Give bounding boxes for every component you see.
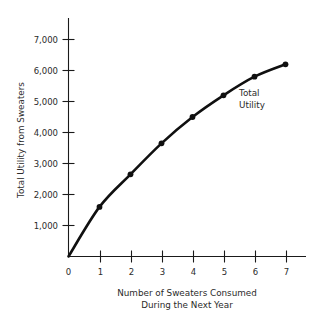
x-tick-label-3: 3 (160, 267, 165, 277)
data-point-7 (283, 61, 289, 67)
y-tick-label-6000: 6,000 (34, 66, 58, 76)
data-point-3 (159, 140, 165, 146)
series-label-line2: Utility (239, 100, 265, 110)
y-tick-label-7000: 7,000 (34, 35, 58, 45)
x-tick-label-1: 1 (98, 267, 103, 277)
x-axis-title-line1: Number of Sweaters Consumed (117, 288, 257, 298)
x-tick-label-4: 4 (191, 267, 196, 277)
data-point-4 (190, 114, 196, 120)
x-axis-title-line2: During the Next Year (141, 300, 233, 310)
x-tick-label-0: 0 (66, 267, 71, 277)
y-tick-label-2000: 2,000 (34, 190, 58, 200)
y-tick-label-5000: 5,000 (34, 97, 58, 107)
data-point-2 (128, 171, 134, 177)
x-tick-label-6: 6 (253, 267, 258, 277)
chart-canvas: 7,000 6,000 5,000 4,000 3,000 2,000 1,00… (0, 0, 332, 318)
x-tick-label-7: 7 (284, 267, 289, 277)
data-point-5 (221, 92, 227, 98)
data-point-1 (97, 204, 103, 210)
data-point-markers (97, 61, 289, 209)
y-axis-title: Total Utility from Sweaters (16, 82, 26, 199)
y-tick-label-1000: 1,000 (34, 221, 58, 231)
series-label-line1: Total (238, 88, 260, 98)
y-tick-label-3000: 3,000 (34, 159, 58, 169)
total-utility-chart: 7,000 6,000 5,000 4,000 3,000 2,000 1,00… (0, 0, 332, 318)
x-tick-label-2: 2 (129, 267, 134, 277)
data-point-6 (252, 74, 258, 80)
y-tick-label-4000: 4,000 (34, 128, 58, 138)
x-tick-label-5: 5 (222, 267, 227, 277)
